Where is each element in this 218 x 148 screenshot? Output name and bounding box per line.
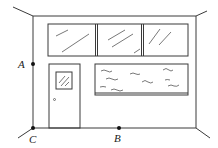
label-b: B [114,133,121,144]
label-c: C [29,134,36,145]
label-a: A [18,59,25,70]
room-diagram [0,0,218,148]
lower-window [95,64,188,95]
point-b [117,126,121,130]
corner-lines [13,7,210,138]
point-a [31,62,35,66]
door-knob [54,99,56,101]
upper-windows [48,24,188,56]
point-c [31,126,35,130]
door [49,64,80,128]
